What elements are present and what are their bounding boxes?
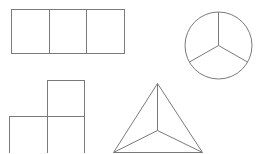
three-squares-shape xyxy=(12,10,125,54)
circle-thirds-shape xyxy=(185,12,252,79)
diagram-canvas xyxy=(0,0,261,153)
l-tromino-shape xyxy=(10,81,85,154)
triangle-thirds-shape xyxy=(114,84,203,153)
